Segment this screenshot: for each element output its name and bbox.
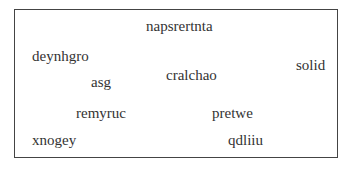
word-qdliiu: qdliiu [228,133,263,148]
word-cralchao: cralchao [166,68,217,83]
word-deynhgro: deynhgro [32,49,89,64]
word-pretwe: pretwe [212,106,253,121]
word-asg: asg [91,75,111,90]
word-napsrertnta: napsrertnta [146,19,213,34]
word-solid: solid [296,58,325,73]
word-xnogey: xnogey [32,133,76,148]
word-remyruc: remyruc [76,106,126,121]
